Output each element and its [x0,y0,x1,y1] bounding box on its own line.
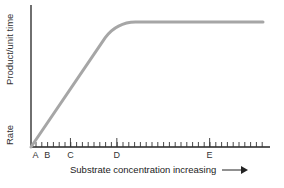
x-axis-ticks [36,138,262,147]
x-label-text: Substrate concentration increasing [70,164,216,175]
x-tick-label-c: C [67,150,74,160]
rate-curve [31,22,263,147]
x-tick-label-e: E [207,150,213,160]
arrow-right-icon [222,166,248,174]
x-tick-label-a: A [33,150,39,160]
y-axis-label: RateProduct/unit time [4,14,15,145]
chart-canvas [0,0,284,188]
x-axis-label: Substrate concentration increasing [70,164,248,175]
x-tick-label-d: D [114,150,121,160]
x-tick-label-b: B [44,150,50,160]
y-label-product: Product/unit time [4,14,15,85]
y-label-rate: Rate [4,125,15,145]
